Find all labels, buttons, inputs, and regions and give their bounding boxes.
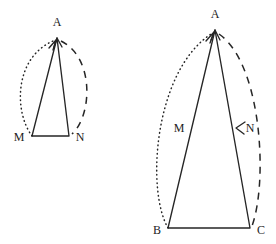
right-vertex-label-c: C [257, 223, 265, 237]
right-vertex-label-m: M [174, 121, 185, 135]
left-dotted-arc-m-to-a [20, 41, 53, 136]
left-triangle-edges [32, 38, 69, 136]
geometry-figure-canvas: A M N A B C M N [0, 0, 276, 244]
right-figure-group: A B C M N [153, 7, 265, 237]
right-vertex-label-a: A [211, 7, 220, 21]
left-dashed-arc-a-to-n [61, 41, 87, 134]
left-figure-group: A M N [14, 15, 87, 144]
left-vertex-label-n: N [76, 130, 85, 144]
left-vertex-label-m: M [14, 130, 25, 144]
right-vertex-label-b: B [153, 223, 161, 237]
right-vertex-label-n: N [246, 121, 255, 135]
left-vertex-label-a: A [53, 15, 62, 29]
right-dashed-arc-arrowhead-at-n [236, 122, 245, 134]
